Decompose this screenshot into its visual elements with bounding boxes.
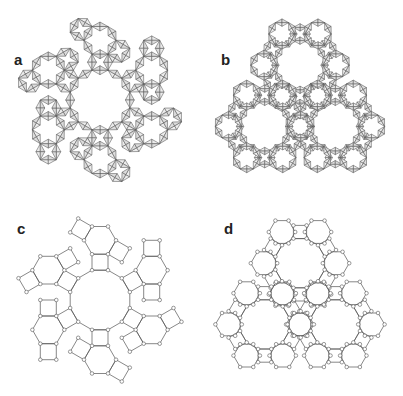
panel-d-structure <box>214 219 387 369</box>
panel-b-structure <box>215 19 384 173</box>
panel-c-structure <box>17 217 184 384</box>
panel-label-d: d <box>224 221 233 236</box>
panel-a-structure <box>19 19 182 182</box>
panel-label-c: c <box>17 221 25 236</box>
panel-label-a: a <box>14 52 22 67</box>
panel-label-b: b <box>221 52 230 67</box>
framework-diagram <box>0 0 403 396</box>
figure: a b c d <box>0 0 403 396</box>
